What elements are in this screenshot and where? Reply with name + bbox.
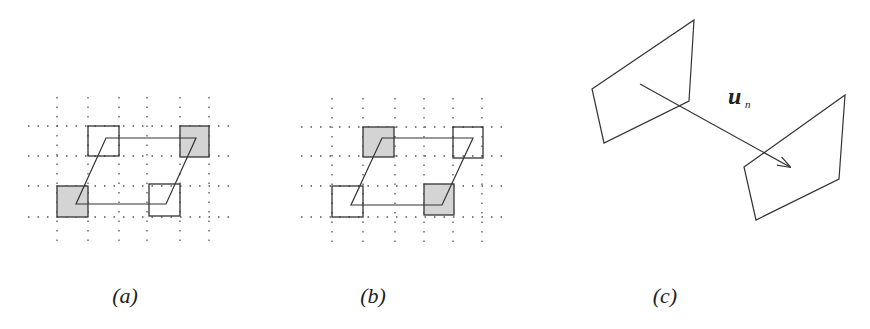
empty-pixel-square [149, 184, 180, 216]
normal-vector-arrow [640, 84, 790, 167]
empty-pixel-square [332, 186, 363, 217]
vector-subscript: n [745, 98, 751, 110]
left-quadrilateral [592, 20, 694, 143]
parallelogram [76, 138, 196, 204]
shaded-pixel-square [57, 186, 88, 217]
right-quadrilateral [744, 95, 845, 220]
caption-a: (a) [112, 283, 138, 308]
vector-label: u [728, 83, 741, 109]
caption-c: (c) [653, 283, 677, 308]
empty-pixel-square [88, 126, 119, 156]
caption-b: (b) [360, 283, 386, 308]
figure-canvas: u n (a) (b) (c) [0, 0, 870, 329]
shaded-pixel-square [363, 127, 394, 157]
panel-c-quad-diagram: u n [592, 20, 845, 220]
panel-b-grid-diagram [301, 98, 510, 246]
panel-a-grid-diagram [28, 97, 235, 246]
empty-pixel-square [453, 127, 483, 158]
